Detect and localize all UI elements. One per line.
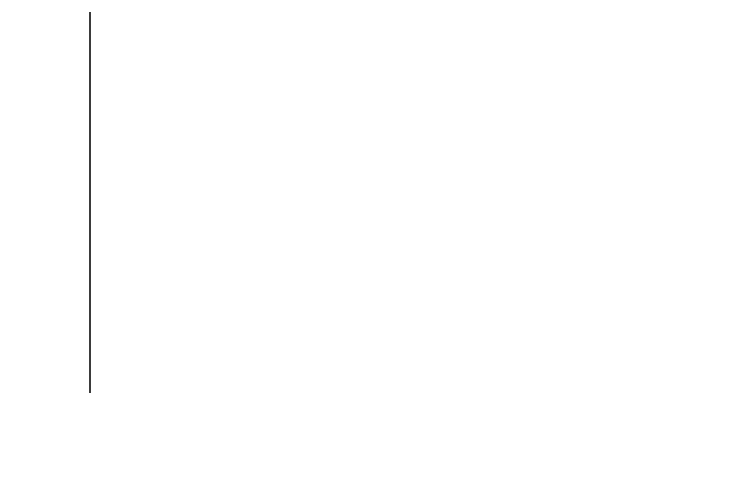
plot-area <box>90 14 756 391</box>
x-axis-tick-labels <box>90 398 756 432</box>
y-axis-tick-labels <box>0 0 78 485</box>
bar-chart <box>0 0 756 485</box>
